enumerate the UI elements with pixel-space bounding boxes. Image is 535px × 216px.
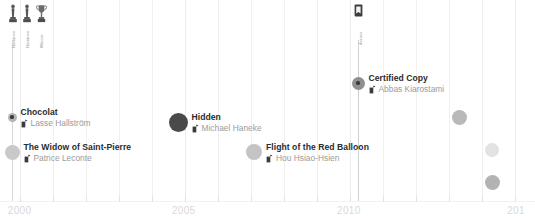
film-director: Michael Haneke [202, 123, 262, 134]
tick-label-2010: 2010 [337, 205, 360, 216]
film-label[interactable]: HiddenMichael Haneke [192, 112, 262, 134]
gridline-2006 [218, 0, 219, 201]
award-statuette-icon [22, 4, 32, 24]
tick-2002 [86, 196, 87, 202]
film-dot[interactable] [485, 175, 500, 190]
tick-2007 [251, 196, 252, 202]
film-title: The Widow of Saint-Pierre [24, 142, 132, 153]
award-annotation-group: Nominee Nominee Winner [0, 0, 60, 62]
film-award-icon [354, 4, 363, 17]
film-director-row: Hou Hsiao-Hsien [266, 153, 369, 164]
film-label[interactable]: Certified CopyAbbas Kiarostami [369, 73, 445, 95]
film-director-row: Michael Haneke [192, 123, 262, 134]
tick-label-2000: 2000 [8, 205, 31, 216]
film-label[interactable]: The Widow of Saint-PierrePatrice Leconte [24, 142, 132, 164]
gridline-2011 [383, 0, 384, 201]
award-badge-icon [266, 154, 273, 163]
film-title: Hidden [192, 112, 262, 123]
film-dot-core [10, 115, 13, 118]
film-title: Flight of the Red Balloon [266, 142, 369, 153]
award-badge-icon [192, 124, 199, 133]
gridline-2015 [515, 0, 516, 201]
film-director: Patrice Leconte [34, 153, 92, 164]
film-director-row: Patrice Leconte [24, 153, 132, 164]
timeline-chart: Nominee Nominee Winner Across ChocolatLa… [0, 0, 535, 216]
tick-2010 [350, 196, 351, 202]
tick-2015 [515, 196, 516, 202]
tick-2004 [152, 196, 153, 202]
award-statuette-icon [8, 4, 18, 24]
annotation-label-winner: Winner [40, 34, 45, 48]
across-annotation-group: Across [350, 0, 380, 60]
gridline-2005 [185, 0, 186, 201]
film-label[interactable]: ChocolatLasse Hallström [21, 107, 91, 129]
gridline-2009 [317, 0, 318, 201]
film-director: Lasse Hallström [31, 118, 91, 129]
gridline-2002 [86, 0, 87, 201]
tick-2012 [416, 196, 417, 202]
tick-label-2005: 2005 [172, 205, 195, 216]
award-badge-icon [21, 119, 28, 128]
tick-2003 [119, 196, 120, 202]
film-title: Certified Copy [369, 73, 445, 84]
tick-2006 [218, 196, 219, 202]
tick-2000 [20, 196, 21, 202]
axis-baseline [0, 201, 535, 202]
gridline-2008 [284, 0, 285, 201]
annotation-label-nominee-2: Nominee [26, 31, 31, 48]
film-director: Hou Hsiao-Hsien [276, 153, 339, 164]
gridline-2013 [449, 0, 450, 201]
award-trophy-icon [36, 4, 47, 24]
gridline-2014 [482, 0, 483, 201]
award-badge-icon [24, 154, 31, 163]
annotation-label-nominee-1: Nominee [12, 31, 17, 48]
film-title: Chocolat [21, 107, 91, 118]
tick-2014 [482, 196, 483, 202]
tick-2009 [317, 196, 318, 202]
gridline-2007 [251, 0, 252, 201]
award-badge-icon [369, 85, 376, 94]
annotation-label-across: Across [359, 32, 364, 45]
gridline-2004 [152, 0, 153, 201]
tick-2005 [185, 196, 186, 202]
tick-2001 [53, 196, 54, 202]
film-label[interactable]: Flight of the Red BalloonHou Hsiao-Hsien [266, 142, 369, 164]
film-director: Abbas Kiarostami [379, 84, 445, 95]
film-dot-core [356, 81, 359, 84]
tick-2008 [284, 196, 285, 202]
film-dot[interactable] [5, 145, 20, 160]
gridline-2012 [416, 0, 417, 201]
film-director-row: Abbas Kiarostami [369, 84, 445, 95]
tick-label-2015: 201 [507, 205, 525, 216]
film-dot[interactable] [246, 144, 262, 160]
tick-2013 [449, 196, 450, 202]
gridline-2003 [119, 0, 120, 201]
tick-2011 [383, 196, 384, 202]
film-dot[interactable] [485, 143, 499, 157]
film-dot[interactable] [452, 110, 467, 125]
film-dot[interactable] [169, 113, 188, 132]
stem [358, 40, 359, 201]
film-director-row: Lasse Hallström [21, 118, 91, 129]
